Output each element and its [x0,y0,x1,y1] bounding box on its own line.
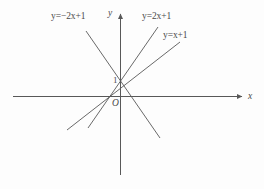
graph-canvas [0,0,264,189]
line-x-plus-one [67,42,180,130]
label-line-neg-two-x-plus-one: y=−2x+1 [51,12,85,22]
label-line-two-x-plus-one: y=2x+1 [142,12,171,22]
label-line-x-plus-one: y=x+1 [163,31,187,41]
y-intercept-value-label: 1 [113,76,118,85]
origin-label: O [112,99,119,109]
line-neg-two-x-plus-one [86,31,160,138]
y-axis-label: y [108,9,112,19]
line-two-x-plus-one [88,27,158,128]
x-axis-label: x [248,92,252,102]
coordinate-graph-figure: y x O 1 y=−2x+1 y=2x+1 y=x+1 [0,0,264,189]
